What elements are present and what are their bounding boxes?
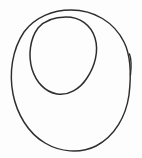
sketch-background: [0, 0, 142, 158]
sketch-svg: Nested ellipses sketch: [0, 0, 142, 158]
sketch-canvas: Nested ellipses sketch: [0, 0, 142, 158]
